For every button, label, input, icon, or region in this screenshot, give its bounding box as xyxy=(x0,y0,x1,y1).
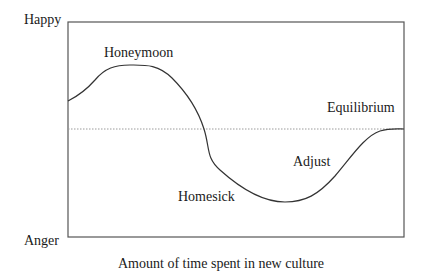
culture-shock-diagram xyxy=(0,0,427,280)
adjustment-curve xyxy=(68,65,404,202)
x-axis-label: Amount of time spent in new culture xyxy=(118,257,324,271)
stage-label-equilibrium: Equilibrium xyxy=(327,101,395,115)
y-axis-top-label: Happy xyxy=(24,13,61,27)
stage-label-homesick: Homesick xyxy=(178,190,235,204)
y-axis-bottom-label: Anger xyxy=(24,234,59,248)
stage-label-honeymoon: Honeymoon xyxy=(104,46,173,60)
stage-label-adjust: Adjust xyxy=(293,155,330,169)
